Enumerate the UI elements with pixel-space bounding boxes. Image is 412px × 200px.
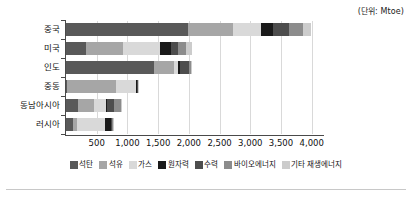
legend-item[interactable]: 수력 — [195, 160, 219, 169]
gridline — [127, 21, 128, 134]
legend-item[interactable]: 가스 — [129, 160, 153, 169]
bar-segment — [273, 23, 289, 36]
bar-segment — [180, 61, 189, 74]
y-axis-tick — [61, 77, 65, 78]
legend-swatch-icon — [195, 161, 203, 169]
legend-swatch-icon — [158, 161, 166, 169]
gridline — [158, 21, 159, 134]
bar-segment — [114, 99, 121, 112]
legend-swatch-icon — [224, 161, 232, 169]
bar-segment — [178, 42, 186, 55]
legend-label: 바이오에너지 — [234, 160, 276, 169]
y-tick-label: 동남아시아 — [2, 100, 60, 110]
legend-label: 석유 — [109, 160, 123, 169]
legend-label: 기타 재생에너지 — [291, 160, 342, 169]
legend-swatch-icon — [99, 161, 107, 169]
y-axis-tick — [61, 115, 65, 116]
bar-row — [66, 23, 311, 36]
legend-swatch-icon — [282, 161, 290, 169]
bar-segment — [171, 42, 178, 55]
x-tick-label: 500 — [89, 138, 105, 148]
y-tick-label: 미국 — [2, 43, 60, 53]
plot-area — [66, 21, 324, 134]
bar-segment — [289, 23, 303, 36]
legend-label: 석탄 — [79, 160, 93, 169]
bar-segment — [77, 118, 105, 131]
x-tick-label: 3,500 — [269, 138, 293, 148]
legend-swatch-icon — [129, 161, 137, 169]
legend-item[interactable]: 원자력 — [158, 160, 189, 169]
gridline — [281, 21, 282, 134]
legend-swatch-icon — [70, 161, 78, 169]
bar-segment — [66, 42, 86, 55]
legend-label: 가스 — [138, 160, 152, 169]
y-axis-tick — [61, 134, 65, 135]
legend-label: 원자력 — [168, 160, 189, 169]
bar-segment — [66, 23, 188, 36]
bar-segment — [67, 80, 116, 93]
x-tick-label: 3,000 — [238, 138, 262, 148]
legend-item[interactable]: 석탄 — [70, 160, 94, 169]
y-tick-label: 인도 — [2, 62, 60, 72]
gridline — [250, 21, 251, 134]
y-axis-tick — [61, 58, 65, 59]
bar-segment — [261, 23, 273, 36]
y-axis-tick — [61, 20, 65, 21]
bar-segment — [191, 61, 192, 74]
gridline — [220, 21, 221, 134]
x-tick-label: 4,000 — [300, 138, 324, 148]
bar-segment — [66, 118, 73, 131]
bar-segment — [86, 42, 123, 55]
x-tick-label: 2,000 — [177, 138, 201, 148]
bar-row — [66, 99, 122, 112]
bar-segment — [303, 23, 311, 36]
bar-segment — [78, 99, 94, 112]
x-axis-labels: 5001,0001,5002,0002,5003,0003,5004,000 — [0, 138, 412, 150]
chart-legend: 석탄석유가스원자력수력바이오에너지기타 재생에너지 — [0, 160, 412, 169]
bar-segment — [107, 99, 114, 112]
bar-segment — [160, 42, 171, 55]
y-axis-tick — [61, 39, 65, 40]
energy-consumption-stacked-bar-chart: (단위: Mtoe) 중국미국인도중동동남아시아러시아 5001,0001,50… — [0, 0, 412, 200]
bar-segment — [121, 99, 123, 112]
bar-segment — [66, 99, 78, 112]
y-tick-label: 중국 — [2, 24, 60, 34]
x-tick-label: 1,000 — [115, 138, 139, 148]
chart-unit-note: (단위: Mtoe) — [358, 5, 404, 16]
bar-segment — [186, 42, 192, 55]
bar-segment — [188, 23, 233, 36]
bar-row — [66, 118, 113, 131]
legend-item[interactable]: 기타 재생에너지 — [282, 160, 343, 169]
x-axis-line — [65, 135, 324, 136]
y-axis-labels: 중국미국인도중동동남아시아러시아 — [0, 0, 60, 200]
bar-segment — [116, 80, 136, 93]
y-tick-label: 중동 — [2, 81, 60, 91]
bar-segment — [123, 42, 160, 55]
bar-segment — [154, 61, 174, 74]
gridline — [312, 21, 313, 134]
legend-label: 수력 — [204, 160, 218, 169]
bar-row — [66, 61, 192, 74]
bar-segment — [94, 99, 106, 112]
x-tick-label: 1,500 — [146, 138, 170, 148]
bar-segment — [233, 23, 261, 36]
bar-segment — [66, 61, 154, 74]
legend-item[interactable]: 석유 — [99, 160, 123, 169]
bar-row — [66, 42, 192, 55]
y-tick-label: 러시아 — [2, 119, 60, 129]
bar-row — [66, 80, 138, 93]
gridline — [189, 21, 190, 134]
x-tick-label: 2,500 — [207, 138, 231, 148]
legend-item[interactable]: 바이오에너지 — [224, 160, 276, 169]
y-axis-tick — [61, 96, 65, 97]
footer-divider — [6, 189, 406, 190]
